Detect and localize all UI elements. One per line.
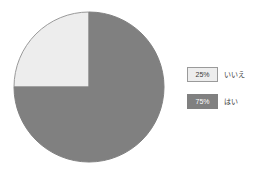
legend-label-hai: はい: [224, 98, 238, 105]
pie-chart-plot-area: [13, 11, 165, 163]
pie-chart-svg: [13, 11, 165, 163]
legend-swatch-hai: 75%: [187, 94, 218, 109]
legend-value-iie: 25%: [195, 71, 209, 78]
chart-legend: 25% いいえ 75% はい: [187, 66, 253, 109]
legend-label-iie: いいえ: [224, 71, 245, 78]
legend-value-hai: 75%: [195, 98, 209, 105]
legend-item-hai[interactable]: 75% はい: [187, 93, 253, 109]
legend-item-iie[interactable]: 25% いいえ: [187, 66, 253, 82]
pie-chart-figure: 25% いいえ 75% はい: [0, 0, 255, 176]
legend-swatch-iie: 25%: [187, 67, 218, 82]
pie-slice-iie[interactable]: [14, 12, 89, 87]
